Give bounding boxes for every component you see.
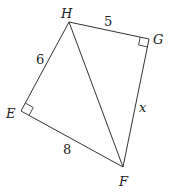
side-label-gf: x [139, 100, 147, 115]
side-label-eh: 6 [36, 52, 44, 67]
side-label-ef: 8 [63, 142, 71, 157]
edge-eh [21, 22, 69, 111]
geometry-diagram: H G E F 5 6 8 x [0, 0, 169, 192]
vertex-label-h: H [60, 6, 73, 21]
side-label-hg: 5 [104, 14, 112, 29]
edge-fe [21, 111, 123, 167]
vertex-label-g: G [153, 32, 163, 47]
diagonal-hf [69, 22, 123, 167]
vertex-label-f: F [118, 174, 129, 189]
vertex-label-e: E [5, 106, 16, 121]
